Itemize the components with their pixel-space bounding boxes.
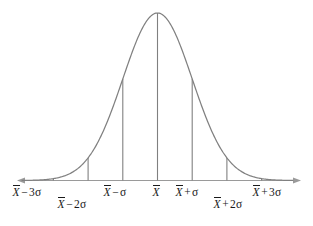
operator-minus: − [20, 186, 29, 198]
label-plus-1-sigma: X+σ [175, 186, 198, 198]
sigma-symbol: σ [35, 186, 41, 198]
sigma-symbol: σ [192, 186, 198, 198]
operator-plus: + [183, 186, 192, 198]
sigma-symbol: σ [80, 198, 86, 210]
sigma-symbol: σ [275, 186, 281, 198]
label-plus-2-sigma: X+2σ [213, 198, 242, 210]
x-bar-symbol: X [252, 186, 260, 198]
operator-minus: − [65, 198, 74, 210]
ordinate-lines [53, 13, 261, 181]
x-bar-symbol: X [12, 186, 20, 198]
label-minus-2-sigma: X−2σ [57, 198, 86, 210]
x-axis-right-arrowhead [293, 178, 301, 184]
label-mean: X [152, 186, 160, 198]
sigma-symbol: σ [236, 198, 242, 210]
operator-plus: + [221, 198, 230, 210]
label-minus-3-sigma: X−3σ [12, 186, 41, 198]
operator-minus: − [111, 186, 120, 198]
x-bar-symbol: X [213, 198, 221, 210]
x-bar-symbol: X [175, 186, 183, 198]
x-bar-symbol: X [103, 186, 111, 198]
label-minus-1-sigma: X−σ [103, 186, 126, 198]
x-bar-symbol: X [152, 186, 160, 198]
x-bar-symbol: X [57, 198, 65, 210]
sigma-symbol: σ [120, 186, 126, 198]
operator-plus: + [260, 186, 269, 198]
label-plus-3-sigma: X+3σ [252, 186, 281, 198]
normal-distribution-figure: X−3σ X−2σ X−σ X X+σ X+2σ X+3σ [0, 0, 313, 226]
